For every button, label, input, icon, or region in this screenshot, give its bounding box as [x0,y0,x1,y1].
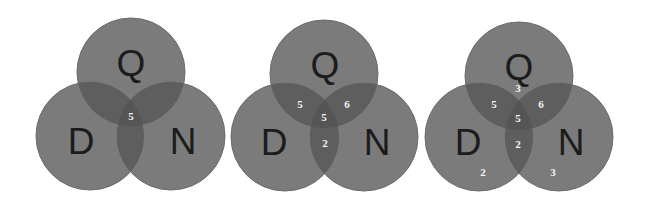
set-label-d: D [455,122,482,163]
venn-diagram-2: Q D N 5 6 5 2 [231,20,418,191]
set-label-n: N [558,122,585,163]
venn-diagram-figure: Q D N 5 Q D N 5 6 5 2 [0,0,645,203]
set-label-q: Q [117,43,146,84]
count-q-d-n: 5 [321,111,327,123]
count-q-d-n: 5 [515,112,521,124]
set-label-d: D [261,122,288,163]
count-q-n: 6 [344,98,350,110]
count-d-only: 2 [480,166,486,178]
count-q-d: 5 [491,98,497,110]
set-label-n: N [170,121,197,162]
count-d-n: 2 [322,137,328,149]
count-q-d: 5 [297,98,303,110]
count-n-only: 3 [550,166,556,178]
venn-diagram-3: Q D N 3 5 6 5 2 2 3 [425,22,613,191]
count-q-n: 6 [538,98,544,110]
count-d-n: 2 [515,138,521,150]
set-label-d: D [68,121,95,162]
set-label-q: Q [311,45,340,86]
count-q-d-n: 5 [128,110,134,122]
set-label-n: N [364,122,391,163]
count-q-only: 3 [515,82,521,94]
venn-diagram-1: Q D N 5 [36,18,225,190]
